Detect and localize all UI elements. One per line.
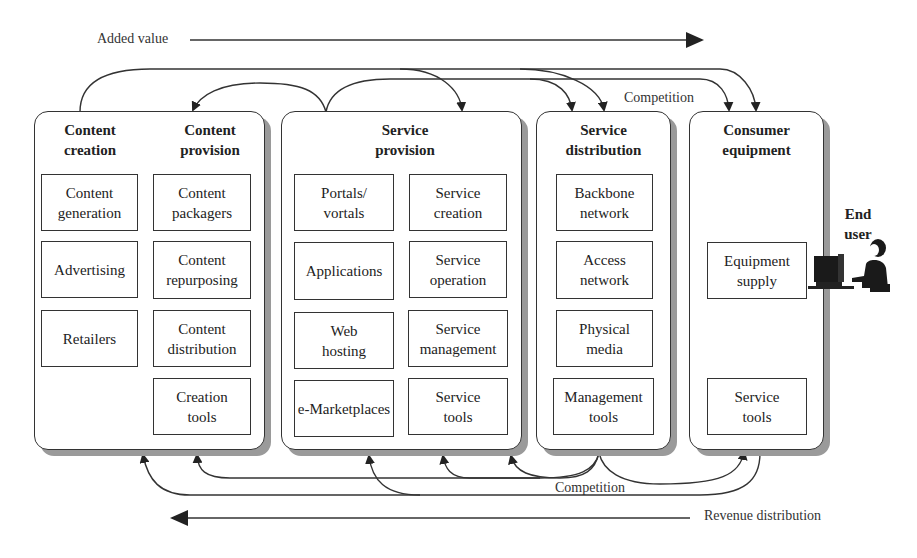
box-line: Equipment (724, 251, 790, 271)
title-line: Consumer (699, 120, 814, 140)
box-service-management: Servicemanagement (408, 310, 508, 367)
end-user-at-computer-icon (806, 238, 892, 298)
box-service-creation: Servicecreation (409, 174, 507, 231)
panel-title-service-distribution: Service distribution (546, 120, 661, 160)
box-line: Portals/ (321, 183, 367, 203)
box-line: repurposing (166, 270, 238, 290)
box-service-tools: Servicetools (408, 378, 508, 435)
box-line: Service (735, 387, 780, 407)
title-line: creation (50, 140, 130, 160)
box-consumer-service-tools: Servicetools (707, 378, 807, 435)
end-user-line: End (838, 204, 878, 224)
box-line: operation (430, 270, 487, 290)
box-management-tools: Managementtools (553, 378, 654, 435)
box-retailers: Retailers (41, 310, 138, 367)
box-line: creation (434, 203, 482, 223)
box-line: network (580, 270, 629, 290)
box-line: Retailers (63, 329, 116, 349)
box-line: Service (430, 250, 487, 270)
box-line: Content (167, 319, 236, 339)
box-backbone-network: Backbonenetwork (556, 174, 653, 231)
title-line: Content (165, 120, 255, 140)
box-line: Advertising (54, 260, 125, 280)
box-line: packagers (172, 203, 232, 223)
box-line: Web (322, 321, 366, 341)
box-line: vortals (321, 203, 367, 223)
competition-bottom-label: Competition (555, 480, 625, 496)
box-line: Creation (176, 387, 228, 407)
box-line: Service (436, 387, 481, 407)
box-line: tools (436, 407, 481, 427)
box-content-distribution: Contentdistribution (153, 310, 251, 367)
title-line: Service (360, 120, 450, 140)
box-line: Content (166, 250, 238, 270)
box-physical-media: Physicalmedia (556, 310, 653, 367)
panel-title-content-creation: Content creation (50, 120, 130, 160)
title-line: provision (360, 140, 450, 160)
box-line: network (575, 203, 635, 223)
box-line: Service (420, 319, 497, 339)
revenue-distribution-label: Revenue distribution (704, 508, 821, 524)
box-line: Applications (306, 261, 383, 281)
title-line: Content (50, 120, 130, 140)
box-line: Access (580, 250, 629, 270)
title-line: equipment (699, 140, 814, 160)
added-value-label: Added value (97, 31, 168, 47)
box-line: distribution (167, 339, 236, 359)
box-access-network: Accessnetwork (556, 241, 653, 299)
panel-title-service-provision: Service provision (360, 120, 450, 160)
box-e-marketplaces: e-Marketplaces (294, 380, 394, 437)
box-line: e-Marketplaces (298, 399, 390, 419)
box-portals-vortals: Portals/vortals (294, 174, 394, 231)
title-line: provision (165, 140, 255, 160)
box-line: hosting (322, 341, 366, 361)
box-line: Management (564, 387, 642, 407)
box-line: tools (735, 407, 780, 427)
box-line: supply (724, 271, 790, 291)
box-line: management (420, 339, 497, 359)
box-service-operation: Serviceoperation (409, 241, 507, 298)
competition-top-label: Competition (624, 90, 694, 106)
box-line: generation (58, 203, 121, 223)
box-line: Service (434, 183, 482, 203)
box-line: tools (564, 407, 642, 427)
box-line: Physical (579, 319, 630, 339)
box-advertising: Advertising (41, 241, 138, 298)
panel-title-content-provision: Content provision (165, 120, 255, 160)
box-content-generation: Contentgeneration (41, 174, 138, 231)
title-line: distribution (546, 140, 661, 160)
box-line: Backbone (575, 183, 635, 203)
box-line: tools (176, 407, 228, 427)
title-line: Service (546, 120, 661, 140)
box-content-packagers: Contentpackagers (153, 174, 251, 231)
panel-title-consumer-equipment: Consumer equipment (699, 120, 814, 160)
box-line: media (579, 339, 630, 359)
box-line: Content (172, 183, 232, 203)
box-equipment-supply: Equipmentsupply (707, 242, 807, 299)
box-applications: Applications (294, 242, 394, 300)
box-creation-tools: Creationtools (153, 378, 251, 435)
box-content-repurposing: Contentrepurposing (153, 241, 251, 299)
box-web-hosting: Webhosting (294, 312, 394, 369)
box-line: Content (58, 183, 121, 203)
